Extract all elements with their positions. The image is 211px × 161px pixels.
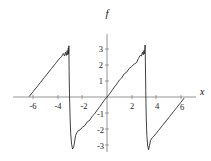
sawtooth-fourier-plot: f -6 -4 -2 2 4 6 3 [0, 0, 211, 161]
plot-title: f [105, 7, 110, 19]
x-tick-label-neg6: -6 [29, 101, 36, 111]
y-tick-label-neg1: -1 [97, 109, 104, 119]
y-tick-label-2: 2 [99, 60, 103, 70]
x-axis-label: x [199, 86, 205, 97]
figure-canvas: f -6 -4 -2 2 4 6 3 [0, 0, 211, 161]
x-tick-label-4: 4 [155, 101, 160, 111]
x-tick-label-2: 2 [130, 101, 134, 111]
y-tick-label-1: 1 [99, 76, 103, 86]
y-tick-label-3: 3 [99, 44, 103, 54]
y-tick-label-neg2: -2 [97, 125, 104, 135]
x-tick-label-neg4: -4 [54, 101, 62, 111]
x-tick-label-neg2: -2 [80, 101, 87, 111]
y-tick-label-neg3: -3 [97, 141, 104, 151]
